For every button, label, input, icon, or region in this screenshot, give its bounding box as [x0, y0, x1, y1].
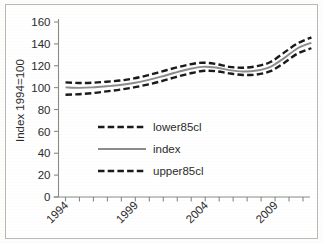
series-line-lower85cl: [65, 37, 311, 83]
y-tick-label: 100: [31, 82, 50, 94]
y-tick-label: 80: [38, 104, 51, 116]
y-tick-label: 120: [31, 60, 50, 72]
y-tick-label: 40: [38, 147, 51, 159]
series-line-index: [65, 43, 311, 88]
line-chart: 020406080100120140160Index 1994=10019941…: [0, 0, 323, 243]
y-tick-label: 140: [31, 38, 50, 50]
x-tick-label: 2004: [184, 199, 211, 226]
x-tick-label: 2009: [253, 199, 280, 226]
y-tick-label: 160: [31, 16, 50, 28]
legend-label-lower85cl: lower85cl: [153, 121, 202, 133]
legend-label-index: index: [153, 143, 181, 155]
x-tick-label: 1999: [114, 199, 141, 226]
chart-figure: 020406080100120140160Index 1994=10019941…: [0, 0, 323, 243]
series-line-upper85cl: [65, 48, 311, 94]
y-tick-label: 0: [44, 191, 50, 203]
legend-label-upper85cl: upper85cl: [153, 165, 204, 177]
y-tick-label: 20: [38, 169, 51, 181]
y-tick-label: 60: [38, 126, 51, 138]
y-axis-title: Index 1994=100: [14, 59, 26, 142]
